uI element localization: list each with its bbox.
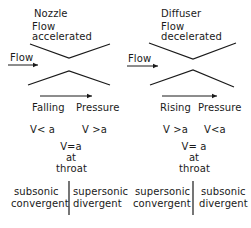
nozzle-right-regime-line1: supersonic <box>73 186 128 197</box>
diffuser-right-regime-line1: subsonic <box>201 186 246 197</box>
diffuser-title: Diffuser <box>161 8 201 19</box>
nozzle-title: Nozzle <box>34 8 68 19</box>
diffuser-throat-line3: throat <box>179 163 209 174</box>
nozzle-upper-wall <box>30 44 110 58</box>
diffuser-flow-label: Flow <box>128 53 151 64</box>
nozzle-right-regime-line2: divergent <box>73 198 122 209</box>
nozzle-left-regime-line1: subsonic <box>14 186 59 197</box>
diffuser-pressure-word2: Pressure <box>198 102 242 113</box>
diffuser-right-regime-line2: divergent <box>199 198 248 209</box>
nozzle-throat-line3: throat <box>56 163 86 174</box>
nozzle-left-regime-line2: convergent <box>11 198 69 209</box>
diffuser-flow-state-line2: decelerated <box>161 31 222 42</box>
nozzle-pressure-word2: Pressure <box>76 102 120 113</box>
diffuser-lower-wall <box>150 70 234 87</box>
diffuser-throat-line2: at <box>179 152 209 163</box>
diffuser-left-regime-line2: convergent <box>133 198 191 209</box>
nozzle-inlet-velocity: V< a <box>30 124 55 135</box>
diffuser-inlet-velocity: V >a <box>163 124 188 135</box>
nozzle-throat-line2: at <box>56 152 86 163</box>
diffuser-upper-wall <box>149 43 236 59</box>
nozzle-outlet-velocity: V >a <box>82 124 107 135</box>
nozzle-throat-line1: V=a <box>56 141 86 152</box>
nozzle-flow-label: Flow <box>10 52 33 63</box>
diffuser-outlet-velocity: V<a <box>204 124 226 135</box>
nozzle-lower-wall <box>28 71 110 85</box>
diffuser-pressure-word1: Rising <box>160 102 191 113</box>
nozzle-pressure-word1: Falling <box>32 102 65 113</box>
diffuser-left-regime-line1: supersonic <box>135 186 190 197</box>
diffuser-throat-line1: V= a <box>179 141 209 152</box>
nozzle-flow-state-line2: accelerated <box>32 31 92 42</box>
